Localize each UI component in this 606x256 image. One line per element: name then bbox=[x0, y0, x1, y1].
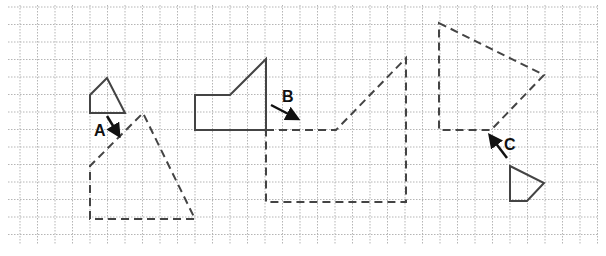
image-shape-b bbox=[266, 58, 406, 202]
diagram-canvas: ABC bbox=[0, 0, 606, 256]
transformation-diagram: ABC bbox=[0, 0, 606, 256]
arrow-icon-a bbox=[107, 116, 118, 134]
label-a: A bbox=[94, 122, 106, 139]
arrow-icon-b bbox=[271, 105, 296, 118]
label-b: B bbox=[282, 88, 294, 105]
shapes: ABC bbox=[90, 23, 544, 219]
label-c: C bbox=[504, 136, 516, 153]
